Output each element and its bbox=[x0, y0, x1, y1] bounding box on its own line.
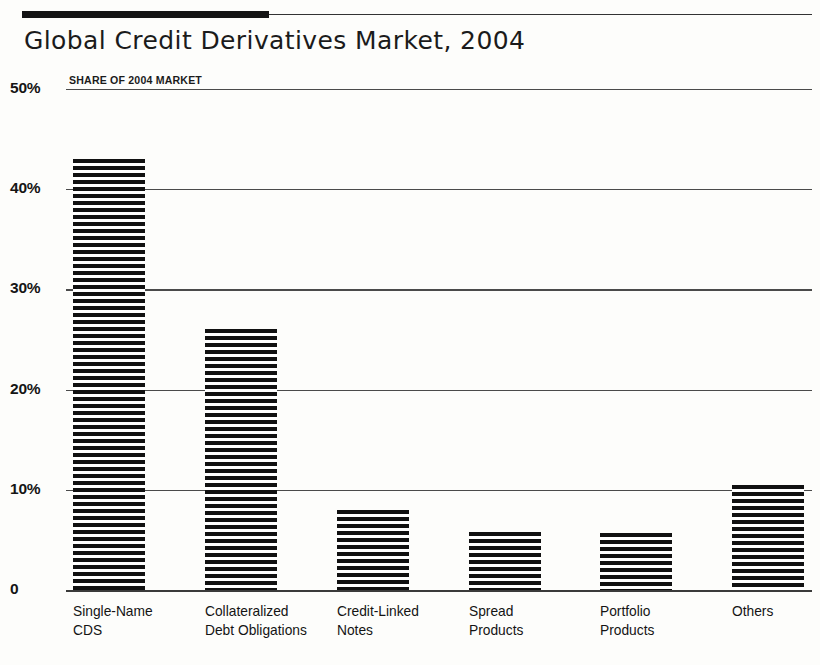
y-tick-label-50: 50% bbox=[10, 79, 60, 97]
y-tick-label-0: 0 bbox=[10, 580, 60, 598]
x-tick-label-3: Credit-Linked Notes bbox=[337, 602, 419, 640]
bar-5 bbox=[600, 533, 672, 590]
chart-page: Global Credit Derivatives Market, 2004 S… bbox=[0, 0, 820, 665]
gridline-50 bbox=[66, 89, 812, 90]
y-tick-label-30: 30% bbox=[10, 279, 60, 297]
gridline-30 bbox=[66, 289, 812, 290]
gridline-10 bbox=[66, 490, 812, 491]
x-tick-label-5: Portfolio Products bbox=[600, 602, 654, 640]
x-tick-label-4: Spread Products bbox=[469, 602, 523, 640]
bar-1 bbox=[73, 159, 145, 590]
y-tick-label-40: 40% bbox=[10, 179, 60, 197]
gridline-20 bbox=[66, 390, 812, 391]
bar-6 bbox=[732, 485, 804, 590]
x-tick-label-2: Collateralized Debt Obligations bbox=[205, 602, 307, 640]
bar-4 bbox=[469, 532, 541, 590]
bar-3 bbox=[337, 510, 409, 590]
chart-plot-area: 50%40%30%20%10%0 Single-Name CDSCollater… bbox=[0, 0, 820, 665]
x-tick-label-6: Others bbox=[732, 602, 773, 621]
x-tick-label-1: Single-Name CDS bbox=[73, 602, 153, 640]
gridline-40 bbox=[66, 189, 812, 190]
axis-baseline bbox=[66, 590, 812, 592]
y-tick-label-20: 20% bbox=[10, 380, 60, 398]
bar-2 bbox=[205, 329, 277, 590]
y-tick-label-10: 10% bbox=[10, 480, 60, 498]
